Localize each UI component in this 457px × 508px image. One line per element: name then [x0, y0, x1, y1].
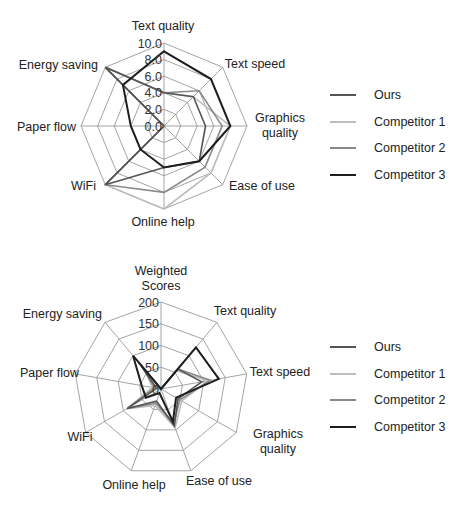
- tick-label: 2.0: [145, 103, 162, 117]
- legend-swatch: [330, 174, 356, 176]
- axis-label: Online help: [102, 478, 165, 492]
- tick-label: 200: [138, 296, 159, 310]
- radar-chart-bottom: 050100150200WeightedScoresText qualityTe…: [20, 264, 310, 492]
- tick-label: 10.0: [138, 37, 162, 51]
- axis-label: Ease of use: [229, 179, 295, 193]
- legend-swatch: [330, 147, 356, 149]
- legend-label: Ours: [374, 340, 401, 354]
- legend-label: Competitor 2: [374, 393, 446, 407]
- legend-label: Competitor 2: [374, 141, 446, 155]
- legend-label: Competitor 1: [374, 115, 446, 129]
- legend-item-ours: Ours: [330, 82, 446, 109]
- legend-swatch: [330, 94, 356, 96]
- legend-label: Competitor 3: [374, 168, 446, 182]
- legend-item-ours: Ours: [330, 334, 446, 361]
- legend-item-competitor-2: Competitor 2: [330, 135, 446, 162]
- tick-label: 6.0: [145, 70, 162, 84]
- axis-label: Energy saving: [23, 307, 102, 321]
- axis-label: Energy saving: [19, 58, 98, 72]
- axis-spoke: [161, 374, 247, 389]
- axis-label: Graphicsquality: [253, 427, 303, 456]
- legend-item-competitor-1: Competitor 1: [330, 361, 446, 388]
- axis-label: Text speed: [225, 57, 286, 71]
- tick-label: 4.0: [145, 86, 162, 100]
- axis-label: WiFi: [71, 179, 96, 193]
- axis-label: WiFi: [68, 430, 93, 444]
- axis-label: Paper flow: [17, 120, 77, 134]
- axis-label: Text quality: [132, 19, 195, 33]
- legend-label: Competitor 1: [374, 367, 446, 381]
- axis-label: Online help: [131, 215, 194, 229]
- legend-top: Ours Competitor 1 Competitor 2 Competito…: [330, 82, 446, 188]
- tick-label: 8.0: [145, 53, 162, 67]
- legend-swatch: [330, 373, 356, 375]
- legend-swatch: [330, 121, 356, 123]
- axis-label: Graphicsquality: [255, 111, 305, 140]
- legend-swatch: [330, 426, 356, 428]
- legend-label: Competitor 3: [374, 420, 446, 434]
- axis-label: Paper flow: [20, 366, 80, 380]
- axis-label: WeightedScores: [135, 264, 188, 293]
- axis-label: Text quality: [214, 304, 277, 318]
- legend-item-competitor-1: Competitor 1: [330, 109, 446, 136]
- legend-label: Ours: [374, 88, 401, 102]
- legend-item-competitor-3: Competitor 3: [330, 162, 446, 189]
- radar-chart-top: 0.02.04.06.08.010.0Text qualityText spee…: [17, 19, 305, 229]
- axis-label: Text speed: [250, 365, 311, 379]
- legend-bottom: Ours Competitor 1 Competitor 2 Competito…: [330, 334, 446, 440]
- tick-label: 0: [152, 383, 159, 397]
- axis-spoke: [161, 389, 236, 433]
- tick-label: 50: [145, 361, 159, 375]
- legend-swatch: [330, 346, 356, 348]
- legend-item-competitor-2: Competitor 2: [330, 387, 446, 414]
- tick-label: 100: [138, 339, 159, 353]
- axis-label: Ease of use: [186, 474, 252, 488]
- tick-label: 150: [138, 317, 159, 331]
- tick-label: 0.0: [145, 120, 162, 134]
- legend-item-competitor-3: Competitor 3: [330, 414, 446, 441]
- legend-swatch: [330, 399, 356, 401]
